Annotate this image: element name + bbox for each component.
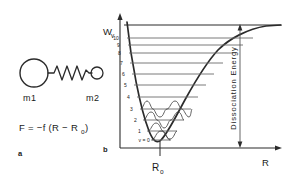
panel-a-label: a [18,149,23,158]
y-axis-arrowhead-icon [117,13,122,20]
panel-b-label: b [103,145,108,154]
level-label-7: 7 [120,60,123,66]
equilibrium-label: R [152,162,159,173]
level-label-3: 3 [130,106,133,112]
equilibrium-marker: R o [152,141,164,175]
panel-a-group: m1 m2 F = −f (R − R o ) a [18,59,103,158]
figure-container: m1 m2 F = −f (R − R o ) a W v R [0,0,286,180]
morse-potential-curve [127,22,281,142]
dissociation-arrowhead-down-icon [238,142,243,149]
equilibrium-subscript: o [160,168,164,175]
mass2-label: m2 [86,93,100,103]
level-label-2: 2 [134,117,137,123]
dissociation-energy-label: Dissociation Energy [229,46,238,129]
hooke-formula: F = −f (R − R o ) [19,122,88,135]
level-label-4: 4 [127,94,130,100]
mass2-ball-icon [91,67,103,79]
level-label-5: 5 [124,82,127,88]
level-labels-group: 10 9 8 7 6 5 4 3 2 1 v = 0 [113,35,150,143]
mass1-label: m1 [23,93,37,103]
x-axis-label: R [262,157,269,168]
level-label-6: 6 [122,71,125,77]
dissociation-energy-arrow: Dissociation Energy [229,24,242,148]
level-label-v0: v = 0 [139,137,151,143]
level-label-1: 1 [138,128,141,134]
level-label-10: 10 [113,35,119,41]
formula-tail: ) [85,122,88,133]
coil-spring-icon [48,66,92,80]
x-axis-arrowhead-icon [275,145,282,150]
formula-main: F = −f (R − R [19,122,78,133]
panel-b-group: W v R [103,13,282,175]
diagram-svg: m1 m2 F = −f (R − R o ) a W v R [0,0,286,180]
level-label-9: 9 [117,42,120,48]
level-label-8: 8 [118,50,121,56]
mass1-ball-icon [20,59,48,87]
